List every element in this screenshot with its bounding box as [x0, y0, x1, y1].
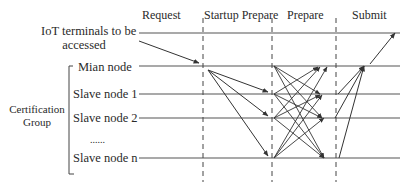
prepare-arrows [274, 66, 327, 158]
request-arrow [139, 41, 199, 63]
timelines [139, 33, 400, 158]
submit-arrows [335, 33, 395, 158]
group-bracket [69, 66, 74, 174]
startup-prepare-arrows [208, 70, 268, 156]
sequence-diagram-canvas [0, 0, 411, 192]
